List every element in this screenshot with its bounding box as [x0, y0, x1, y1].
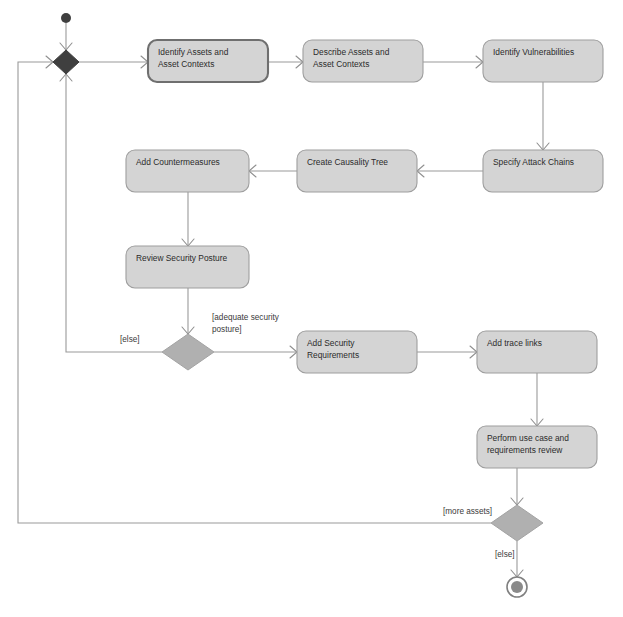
activity-final-node[interactable]	[507, 577, 527, 597]
decision-node-security-posture[interactable]	[162, 334, 214, 370]
action-label-perform-review-line2: requirements review	[487, 445, 563, 455]
action-node-review-security-posture[interactable]: Review Security Posture	[126, 246, 249, 288]
edge-more-assets-loop-to-merge	[18, 62, 491, 523]
action-label-identify-assets-line2: Asset Contexts	[158, 59, 214, 69]
action-label-add-security-requirements-line1: Add Security	[307, 338, 355, 348]
flow-edges	[18, 23, 549, 577]
guard-label-more-assets: [more assets]	[443, 507, 492, 516]
guard-label-adequate-posture-line1: [adequate security	[212, 313, 280, 322]
action-node-identify-vulnerabilities[interactable]: Identify Vulnerabilities	[483, 40, 603, 82]
action-label-describe-assets-line1: Describe Assets and	[313, 47, 390, 57]
guard-label-else-final: [else]	[495, 550, 515, 559]
action-node-specify-attack-chains[interactable]: Specify Attack Chains	[483, 150, 603, 192]
action-label-add-security-requirements-line2: Requirements	[307, 350, 359, 360]
action-label-review-security-posture: Review Security Posture	[136, 253, 228, 263]
initial-node	[61, 13, 71, 23]
action-label-perform-review-line1: Perform use case and	[487, 433, 569, 443]
action-node-add-security-requirements[interactable]: Add Security Requirements	[297, 331, 417, 373]
decision-node-more-assets[interactable]	[491, 505, 543, 541]
action-node-add-trace-links[interactable]: Add trace links	[477, 331, 597, 373]
action-label-add-countermeasures: Add Countermeasures	[136, 157, 220, 167]
action-node-perform-review[interactable]: Perform use case and requirements review	[477, 426, 597, 468]
final-node-core	[511, 581, 523, 593]
action-label-create-causality-tree: Create Causality Tree	[307, 157, 388, 167]
action-label-add-trace-links: Add trace links	[487, 338, 542, 348]
action-node-add-countermeasures[interactable]: Add Countermeasures	[126, 150, 249, 192]
action-label-describe-assets-line2: Asset Contexts	[313, 59, 369, 69]
merge-node[interactable]	[53, 50, 79, 74]
action-node-identify-assets[interactable]: Identify Assets and Asset Contexts	[148, 40, 268, 82]
activity-diagram-canvas: Identify Assets and Asset Contexts Descr…	[0, 0, 623, 617]
guard-label-else-posture: [else]	[120, 335, 140, 344]
uml-activity-diagram: Identify Assets and Asset Contexts Descr…	[0, 0, 623, 617]
guard-label-adequate-posture-line2: posture]	[212, 325, 242, 334]
action-label-identify-vulnerabilities: Identify Vulnerabilities	[493, 47, 574, 57]
edge-posture-else-to-merge	[66, 74, 162, 352]
action-node-describe-assets[interactable]: Describe Assets and Asset Contexts	[303, 40, 423, 82]
action-label-specify-attack-chains: Specify Attack Chains	[493, 157, 574, 167]
action-node-create-causality-tree[interactable]: Create Causality Tree	[297, 150, 417, 192]
action-label-identify-assets-line1: Identify Assets and	[158, 47, 229, 57]
